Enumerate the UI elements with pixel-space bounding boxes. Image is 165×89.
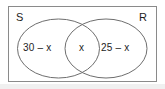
set-label-s: S (16, 12, 24, 23)
bottom-band (0, 84, 165, 89)
set-label-r: R (139, 12, 147, 23)
region-label-right-only: 25 – x (101, 43, 129, 53)
region-label-left-only: 30 – x (23, 43, 51, 53)
region-label-intersection: x (79, 43, 84, 53)
venn-diagram: S R 30 – x x 25 – x (0, 0, 165, 89)
